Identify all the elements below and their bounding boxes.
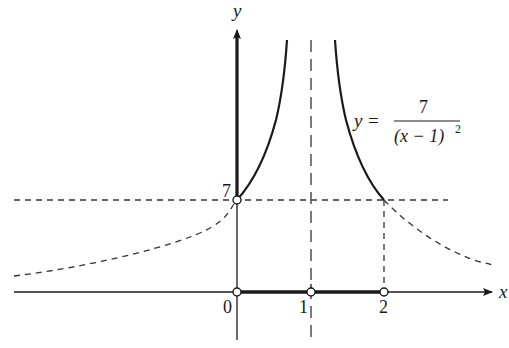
function-label: y = 7 (x − 1) 2 <box>352 97 461 147</box>
function-denominator-exponent: 2 <box>455 122 461 136</box>
curve-dashed-right <box>384 200 492 265</box>
diagram-canvas: y x 7 0 1 2 y = 7 (x − 1) 2 <box>0 0 509 348</box>
curve-dashed-left <box>14 200 237 276</box>
open-point-y7 <box>233 196 241 204</box>
function-lhs: y <box>352 110 363 131</box>
tick-label-x1: 1 <box>299 297 308 317</box>
open-point-x1 <box>307 288 315 296</box>
function-denominator: (x − 1) <box>394 126 444 147</box>
open-point-origin <box>233 288 241 296</box>
y-axis-label: y <box>231 0 242 21</box>
x-axis-label: x <box>498 281 508 302</box>
curve-solid-left-branch <box>237 40 287 200</box>
tick-label-x0: 0 <box>223 297 232 317</box>
open-point-x2 <box>380 288 388 296</box>
tick-label-x2: 2 <box>379 297 388 317</box>
function-equals: = <box>368 110 379 131</box>
tick-label-y7: 7 <box>222 181 231 201</box>
function-numerator: 7 <box>419 97 428 117</box>
